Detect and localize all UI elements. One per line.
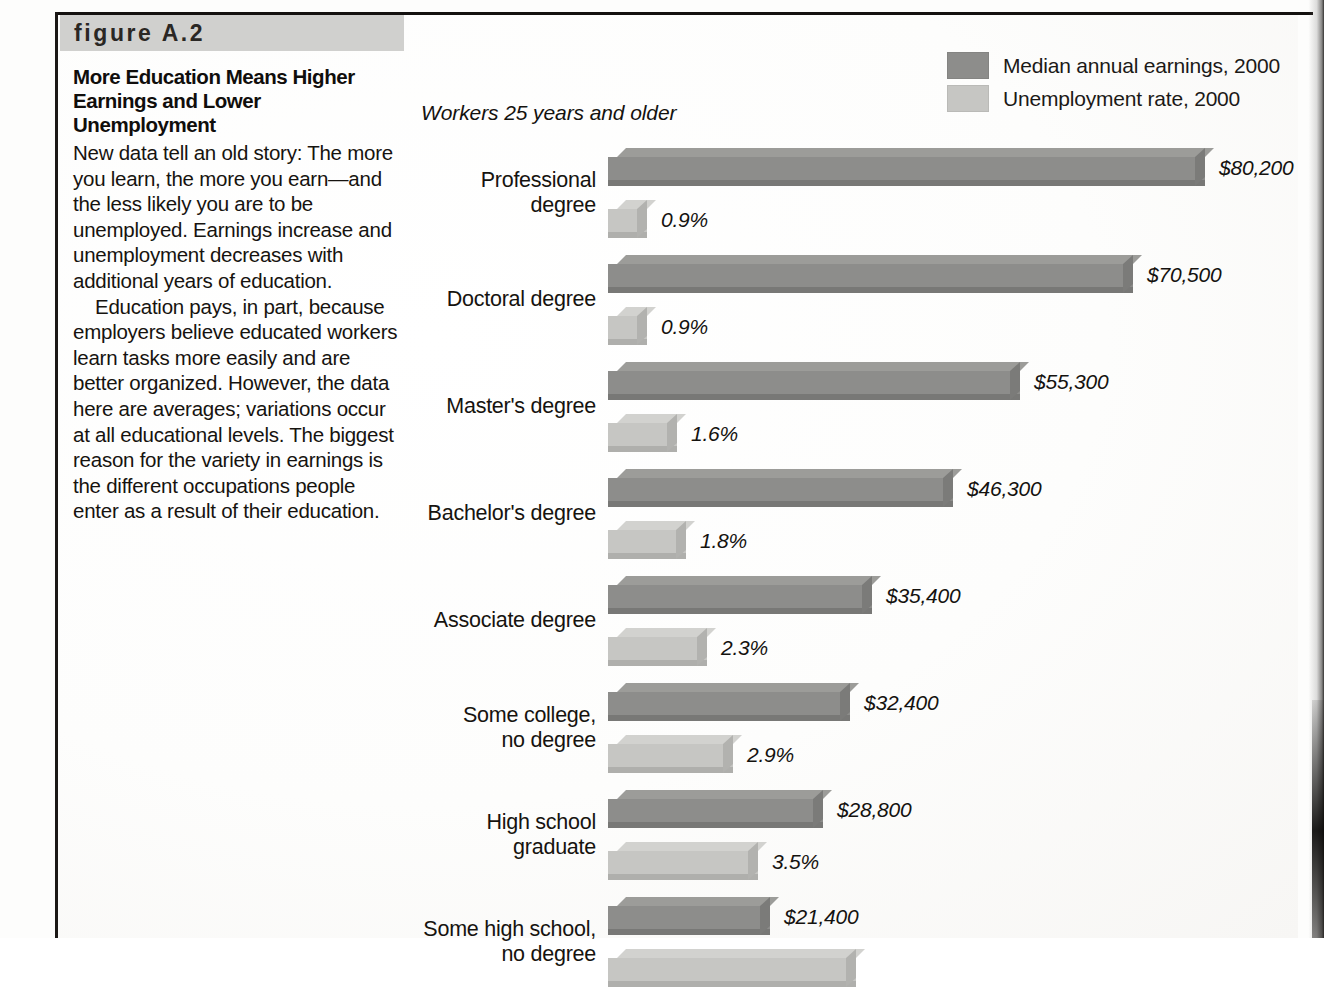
unemployment-value-label: 0.9% — [661, 208, 708, 232]
bar-bottom-shade — [608, 394, 1020, 400]
category-axis-label: Bachelor's degree — [346, 501, 596, 526]
chart-category-group: High schoolgraduate$28,8003.5% — [408, 790, 1298, 897]
bar-bottom-shade — [608, 981, 856, 987]
earnings-bar-row: $80,200 — [608, 148, 1205, 192]
earnings-bar-row: $55,300 — [608, 362, 1020, 406]
category-label-line: Bachelor's degree — [428, 501, 596, 525]
earnings-bar-row: $70,500 — [608, 255, 1133, 299]
bar-bottom-shade — [608, 287, 1133, 293]
bar-front-face — [608, 530, 686, 559]
category-label-line: Professional — [481, 168, 596, 192]
unemployment-bar — [608, 628, 707, 666]
chart-category-group: Bachelor's degree$46,3001.8% — [408, 469, 1298, 576]
earnings-value-label: $70,500 — [1147, 263, 1222, 287]
bar-top-face — [617, 897, 779, 906]
chart-subtitle: Workers 25 years and older — [421, 101, 676, 125]
bar-bottom-shade — [608, 715, 850, 721]
unemployment-bar — [608, 842, 758, 880]
earnings-bar — [608, 576, 872, 614]
bar-bottom-shade — [608, 608, 872, 614]
category-axis-label: Some college,no degree — [346, 703, 596, 753]
category-label-line: Some college, — [463, 703, 596, 727]
earnings-bar — [608, 255, 1133, 293]
earnings-bar — [608, 683, 850, 721]
bar-top-face — [617, 790, 832, 799]
page-spine-rule — [55, 12, 58, 938]
earnings-value-label: $21,400 — [784, 905, 859, 929]
bar-front-face — [608, 744, 733, 773]
chart-plot-area: Professionaldegree$80,2000.9%Doctoral de… — [408, 148, 1298, 991]
bar-top-face — [617, 200, 656, 209]
legend-label-unemployment: Unemployment rate, 2000 — [1003, 87, 1240, 111]
category-label-line: Doctoral degree — [447, 287, 596, 311]
figure-title: More Education Means Higher Earnings and… — [60, 65, 393, 137]
unemployment-bar-row — [608, 949, 856, 991]
bar-front-face — [608, 799, 823, 828]
earnings-value-label: $80,200 — [1219, 156, 1294, 180]
unemployment-bar — [608, 414, 677, 452]
unemployment-bar — [608, 307, 647, 345]
chart-category-group: Professionaldegree$80,2000.9% — [408, 148, 1298, 255]
category-axis-label: Some high school,no degree — [346, 917, 596, 967]
earnings-bar-row: $21,400 — [608, 897, 770, 941]
legend-label-earnings: Median annual earnings, 2000 — [1003, 54, 1280, 78]
category-axis-label: Professionaldegree — [346, 168, 596, 218]
bar-front-face — [608, 637, 707, 666]
bar-front-face — [608, 692, 850, 721]
bar-top-face — [617, 683, 859, 692]
unemployment-bar-row: 0.9% — [608, 200, 647, 244]
earnings-bar-row: $28,800 — [608, 790, 823, 834]
category-label-line: degree — [531, 193, 596, 217]
category-label-line: no degree — [501, 942, 596, 966]
unemployment-value-label: 2.3% — [721, 636, 768, 660]
unemployment-value-label: 0.9% — [661, 315, 708, 339]
chart-region: Median annual earnings, 2000 Unemploymen… — [408, 15, 1298, 938]
bar-top-face — [617, 949, 865, 958]
chart-category-group: Some college,no degree$32,4002.9% — [408, 683, 1298, 790]
unemployment-bar — [608, 735, 733, 773]
earnings-bar — [608, 148, 1205, 186]
bar-top-face — [617, 255, 1142, 264]
bar-front-face — [608, 851, 758, 880]
category-label-line: Associate degree — [434, 608, 596, 632]
earnings-value-label: $55,300 — [1034, 370, 1109, 394]
bar-bottom-shade — [608, 767, 733, 773]
unemployment-bar-row: 0.9% — [608, 307, 647, 351]
figure-number-band: figure A.2 — [60, 15, 404, 51]
bar-bottom-shade — [608, 501, 953, 507]
unemployment-bar-row: 2.9% — [608, 735, 733, 779]
figure-title-line-1: More Education Means Higher — [73, 65, 355, 88]
bar-front-face — [608, 958, 856, 987]
bar-front-face — [608, 264, 1133, 293]
unemployment-bar — [608, 949, 856, 987]
category-label-line: graduate — [513, 835, 596, 859]
earnings-value-label: $35,400 — [886, 584, 961, 608]
chart-legend: Median annual earnings, 2000 Unemploymen… — [947, 49, 1280, 115]
earnings-bar — [608, 362, 1020, 400]
earnings-value-label: $32,400 — [864, 691, 939, 715]
unemployment-value-label: 1.6% — [691, 422, 738, 446]
bar-front-face — [608, 423, 677, 452]
category-axis-label: Doctoral degree — [346, 287, 596, 312]
bar-bottom-shade — [608, 553, 686, 559]
unemployment-bar-row: 1.6% — [608, 414, 677, 458]
legend-item-unemployment: Unemployment rate, 2000 — [947, 82, 1280, 115]
category-label-line: no degree — [501, 728, 596, 752]
earnings-bar-row: $32,400 — [608, 683, 850, 727]
earnings-bar-row: $46,300 — [608, 469, 953, 513]
unemployment-value-label: 1.8% — [700, 529, 747, 553]
chart-category-group: Doctoral degree$70,5000.9% — [408, 255, 1298, 362]
bar-bottom-shade — [608, 874, 758, 880]
category-axis-label: High schoolgraduate — [346, 810, 596, 860]
legend-swatch-earnings — [947, 52, 989, 79]
earnings-value-label: $28,800 — [837, 798, 912, 822]
chart-category-group: Associate degree$35,4002.3% — [408, 576, 1298, 683]
category-axis-label: Master's degree — [346, 394, 596, 419]
earnings-bar-row: $35,400 — [608, 576, 872, 620]
earnings-value-label: $46,300 — [967, 477, 1042, 501]
bar-front-face — [608, 906, 770, 935]
bar-top-face — [617, 307, 656, 316]
unemployment-value-label: 2.9% — [747, 743, 794, 767]
bar-front-face — [608, 157, 1205, 186]
